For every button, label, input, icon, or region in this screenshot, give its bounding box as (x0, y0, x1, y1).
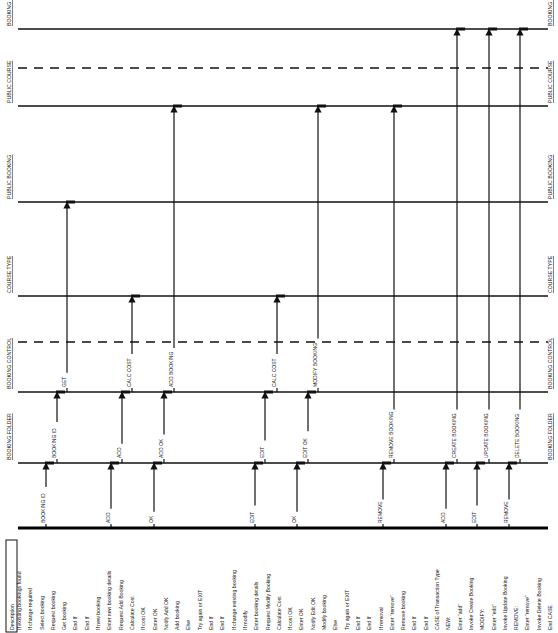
activation-box (317, 105, 326, 108)
message-label: BOOKING ID (40, 493, 46, 523)
activation-box (153, 462, 162, 465)
activation-box (307, 391, 316, 394)
message: ADD (440, 462, 454, 529)
message: ADD BOOKING (168, 105, 182, 393)
message: EDIT (249, 462, 263, 529)
description-line: End If (219, 616, 225, 630)
message-label: EDIT (471, 512, 477, 523)
description-line: If existing bookings found (16, 571, 22, 630)
activation-box (110, 462, 119, 465)
description-line: Calculate Cost (129, 596, 135, 630)
description-line: Invoke Update Booking (502, 576, 508, 630)
message-label: DELETE BOOKING (514, 414, 520, 458)
description-line: Enter "remove" (524, 595, 530, 630)
description-line: CASE of Transaction Type (434, 569, 440, 630)
message: OK (148, 462, 162, 529)
description-line: End CASE (547, 605, 553, 630)
description-line: Enter "edit" (491, 604, 497, 630)
message: CALC COST (126, 295, 140, 393)
description-line: If new booking (95, 596, 101, 630)
description-line: If cost OK (140, 607, 146, 630)
description-line: Remove booking (400, 591, 406, 630)
message: ADD (105, 462, 119, 529)
message-label: EDIT OK (302, 437, 308, 458)
lifeline-label-left: PUBLIC BOOKING (6, 155, 12, 199)
message: EDIT (259, 391, 273, 464)
message: EDIT (471, 462, 485, 529)
activation-box (476, 462, 485, 465)
description-line: MODIFY: (479, 609, 485, 630)
description-line: Get booking (61, 602, 67, 630)
description-header: Description (9, 604, 15, 630)
description-line: Enter "add" (457, 604, 463, 630)
description-line: Modify booking (321, 595, 327, 630)
description-line: REMOVE: (513, 606, 519, 630)
message-label: ADD OK (158, 438, 164, 458)
lifeline-label-right: BOOKING DTX (547, 0, 553, 26)
lifeline-label-right: COURSE TYPE (547, 255, 553, 293)
activation-box (264, 391, 273, 394)
message: UPDATE BOOKING (483, 28, 497, 464)
message-label: ADD (440, 512, 446, 523)
description-line: Else (332, 620, 338, 630)
message-label: ADD (116, 447, 122, 458)
lifeline-label-left: BOOKING FOLDER (6, 413, 12, 460)
message: REMOVE (377, 462, 391, 529)
activation-box (131, 295, 140, 298)
description-line: Request Modify Booking (265, 574, 271, 630)
description-line: Enter new booking details (106, 570, 112, 630)
description-line: If removal (378, 607, 384, 630)
message: BOOKING ID (51, 391, 65, 464)
activation-box (254, 462, 263, 465)
description-line: If change required (27, 588, 33, 630)
activation-box (173, 105, 182, 108)
activation-box (66, 201, 75, 204)
message: CREATE BOOKING (451, 28, 465, 464)
message: REMOVE (503, 462, 517, 529)
message-label: UPDATE BOOKING (483, 413, 489, 458)
lifeline-label-right: PUBLIC COURSE (547, 60, 553, 103)
description-line: End If (411, 616, 417, 630)
description-line: End If (355, 616, 361, 630)
description-line: Else (185, 620, 191, 630)
activation-box (56, 391, 65, 394)
description-line: Try again or EXIT (344, 589, 350, 630)
description-line: Select booking (39, 596, 45, 630)
lifelines-group: BOOKING DTXBOOKING DTXPUBLIC COURSEPUBLI… (6, 0, 553, 463)
message-label: ADD (105, 512, 111, 523)
activation-box (456, 28, 465, 31)
description-line: Enter OK (152, 608, 158, 630)
lifeline-label-left: BOOKING DTX (6, 0, 12, 26)
sequence-diagram: BOOKING DTXBOOKING DTXPUBLIC COURSEPUBLI… (0, 0, 558, 633)
activation-box (382, 462, 391, 465)
message: OK (291, 462, 305, 529)
message-label: MODIFY BOOKING (312, 343, 318, 387)
description-line: End If (84, 616, 90, 630)
messages-group: BOOKING IDADDOKEDITOKREMOVEADDEDITREMOVE… (40, 28, 528, 529)
message: CALC COST (271, 295, 285, 393)
activation-box (488, 28, 497, 31)
description-line: Calculate Cost (276, 596, 282, 630)
lifeline-label-right: BOOKING FOLDER (547, 413, 553, 460)
lifeline-label-left: BOOKING CONTROL (6, 338, 12, 389)
activation-box (296, 462, 305, 465)
lifeline-label-left: PUBLIC COURSE (6, 60, 12, 103)
lifeline-label-right: PUBLIC BOOKING (547, 155, 553, 199)
description-line: End If (366, 616, 372, 630)
message-label: EDIT (249, 512, 255, 523)
message-label: OK (148, 515, 154, 523)
message-label: ADD BOOKING (168, 352, 174, 387)
description-line: Enter OK (298, 608, 304, 630)
description-line: Notify Edit OK (310, 597, 316, 630)
message: ADD OK (158, 391, 172, 464)
description-line: If change existing booking (231, 570, 237, 630)
description-line: Request booking (50, 591, 56, 630)
description-line: Invoke Delete Booking (536, 578, 542, 630)
description-line: Notify Add OK (163, 597, 169, 630)
message: DELETE BOOKING (514, 28, 528, 464)
description-line: NEW: (445, 617, 451, 630)
description-line: Enter "remove" (389, 595, 395, 630)
activation-box (508, 462, 517, 465)
message-label: BOOKING ID (51, 428, 57, 458)
activation-box (393, 105, 402, 108)
